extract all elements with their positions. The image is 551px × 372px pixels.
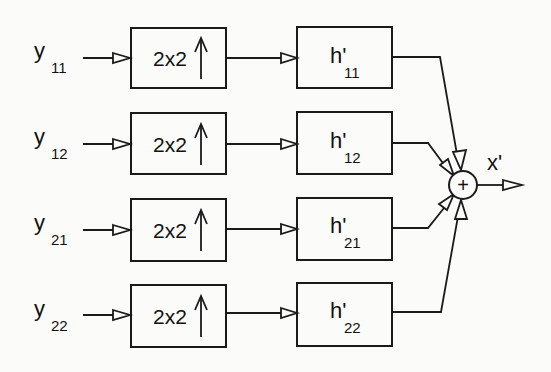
upsampler-label-2: 2x2 — [153, 133, 187, 156]
arrowhead-icon — [281, 224, 297, 234]
arrowhead-icon — [453, 150, 466, 170]
arrowhead-icon — [439, 194, 454, 210]
arrowhead-icon — [455, 200, 467, 219]
output-label: x' — [487, 150, 502, 175]
upsampler-label-1: 2x2 — [153, 47, 187, 70]
out-wire-2 — [392, 143, 451, 174]
arrowhead-icon — [281, 139, 297, 149]
up-arrow-icon — [195, 296, 207, 337]
filter-subscript-h11: 11 — [344, 64, 360, 81]
up-arrow-icon — [195, 124, 207, 165]
arrowhead-icon — [113, 139, 130, 149]
input-subscript-y22: 22 — [51, 317, 68, 334]
row-2: y 12 2x2 h' 12 — [34, 112, 451, 174]
arrowhead-icon — [503, 180, 522, 190]
row-1: y 11 2x2 h' 11 — [34, 27, 459, 166]
arrowhead-icon — [113, 310, 130, 320]
block-diagram: y 11 2x2 h' 11 y 12 2x2 h' 12 — [0, 0, 551, 372]
filter-subscript-h22: 22 — [344, 319, 361, 336]
input-label-y22: y — [34, 296, 45, 321]
row-4: y 22 2x2 h' 22 — [34, 205, 460, 347]
upsampler-label-3: 2x2 — [153, 219, 187, 242]
input-label-y21: y — [34, 210, 45, 235]
input-subscript-y11: 11 — [51, 59, 67, 76]
arrowhead-icon — [281, 308, 297, 318]
up-arrow-icon — [195, 38, 207, 79]
up-arrow-icon — [195, 210, 207, 251]
filter-subscript-h12: 12 — [344, 149, 361, 166]
out-wire-4 — [392, 205, 460, 312]
input-subscript-y12: 12 — [51, 145, 68, 162]
summing-node: + — [449, 171, 477, 199]
input-label-y12: y — [34, 124, 45, 149]
arrowhead-icon — [281, 53, 297, 63]
input-label-y11: y — [34, 38, 45, 63]
arrowhead-icon — [113, 53, 130, 63]
row-3: y 21 2x2 h' 21 — [34, 198, 452, 261]
plus-icon: + — [457, 174, 469, 196]
arrowhead-icon — [113, 225, 130, 235]
filter-subscript-h21: 21 — [344, 234, 361, 251]
input-subscript-y21: 21 — [51, 231, 68, 248]
out-wire-1 — [392, 57, 459, 166]
upsampler-label-4: 2x2 — [153, 305, 187, 328]
